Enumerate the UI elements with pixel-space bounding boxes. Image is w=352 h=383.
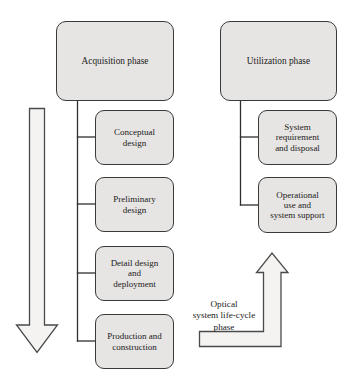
preliminary-design-box[interactable]: Preliminary design — [95, 177, 174, 232]
detail-design-label: Detail design and deployment — [111, 258, 159, 288]
operational-use-box[interactable]: Operational use and system support — [258, 177, 337, 233]
diagram-canvas: Acquisition phase Conceptual design Prel… — [0, 0, 352, 383]
life-cycle-caption-text: Optical system life-cycle phase — [193, 299, 256, 331]
acquisition-phase-box[interactable]: Acquisition phase — [56, 21, 174, 101]
acquisition-phase-label: Acquisition phase — [82, 56, 149, 66]
system-requirement-label: System requirement and disposal — [275, 122, 320, 152]
life-cycle-caption: Optical system life-cycle phase — [178, 288, 270, 333]
operational-use-label: Operational use and system support — [270, 190, 324, 220]
utilization-phase-box[interactable]: Utilization phase — [220, 21, 337, 101]
system-requirement-box[interactable]: System requirement and disposal — [258, 110, 337, 165]
utilization-phase-label: Utilization phase — [247, 56, 310, 66]
preliminary-design-label: Preliminary design — [113, 194, 156, 214]
downward-progression-arrow — [17, 109, 58, 353]
conceptual-design-label: Conceptual design — [114, 127, 155, 147]
production-construction-box[interactable]: Production and construction — [95, 314, 174, 369]
acquisition-connector-tree — [78, 100, 96, 341]
production-construction-label: Production and construction — [107, 331, 162, 351]
detail-design-box[interactable]: Detail design and deployment — [95, 246, 174, 301]
conceptual-design-box[interactable]: Conceptual design — [95, 110, 174, 165]
utilization-connector-tree — [241, 100, 259, 205]
